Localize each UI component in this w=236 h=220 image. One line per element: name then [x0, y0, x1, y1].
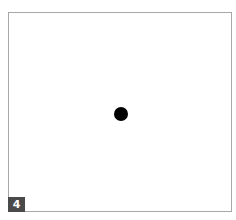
- panel-number-label: 4: [8, 197, 25, 212]
- center-dot: [114, 107, 128, 121]
